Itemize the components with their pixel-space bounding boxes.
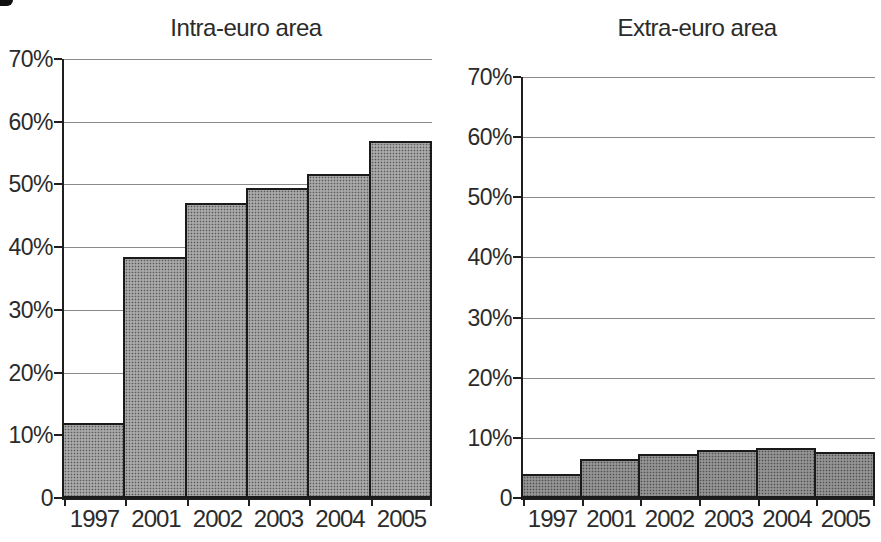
gridline bbox=[523, 318, 875, 319]
y-axis-label: 20% bbox=[442, 365, 512, 391]
x-axis-tick bbox=[523, 500, 525, 506]
x-axis-tick bbox=[758, 500, 760, 506]
y-axis-tick bbox=[513, 497, 521, 499]
gridline bbox=[523, 438, 875, 439]
y-axis-tick bbox=[513, 256, 521, 258]
y-axis-label: 0 bbox=[442, 485, 512, 511]
x-axis-label: 2002 bbox=[640, 505, 699, 533]
y-axis-tick bbox=[513, 196, 521, 198]
gridline bbox=[523, 378, 875, 379]
x-axis-tick bbox=[582, 500, 584, 506]
y-axis-tick bbox=[513, 377, 521, 379]
y-axis-tick bbox=[513, 317, 521, 319]
bar-2001 bbox=[580, 459, 640, 498]
gridline bbox=[523, 77, 875, 78]
x-axis-tick bbox=[699, 500, 701, 506]
x-axis-label: 2005 bbox=[816, 505, 875, 533]
y-axis-label: 40% bbox=[442, 244, 512, 270]
y-axis-tick bbox=[513, 437, 521, 439]
y-axis-tick bbox=[513, 136, 521, 138]
x-axis-label: 2001 bbox=[582, 505, 640, 533]
y-axis-tick bbox=[513, 76, 521, 78]
extra-euro-area-chart: Extra-euro area 70%60%50%40%30%20%10%019… bbox=[0, 0, 881, 542]
x-axis-tick bbox=[816, 500, 818, 506]
y-axis-label: 10% bbox=[442, 425, 512, 451]
x-axis-label: 2003 bbox=[699, 505, 758, 533]
x-axis-tick bbox=[640, 500, 642, 506]
y-axis-label: 60% bbox=[442, 124, 512, 150]
chart-title: Extra-euro area bbox=[521, 14, 873, 42]
gridline bbox=[523, 197, 875, 198]
x-axis-label: 2004 bbox=[758, 505, 816, 533]
gridline bbox=[523, 137, 875, 138]
gridline bbox=[523, 257, 875, 258]
bar-2003 bbox=[697, 450, 758, 498]
y-axis-label: 70% bbox=[442, 64, 512, 90]
figure-canvas: Intra-euro area 70%60%50%40%30%20%10%019… bbox=[0, 0, 881, 542]
bar-2004 bbox=[756, 448, 816, 498]
bar-1997 bbox=[521, 474, 582, 498]
bar-2005 bbox=[814, 452, 875, 498]
y-axis-label: 50% bbox=[442, 184, 512, 210]
plot-area: 70%60%50%40%30%20%10%0199720012002200320… bbox=[521, 77, 875, 500]
bar-2002 bbox=[638, 454, 699, 498]
x-axis-label: 1997 bbox=[523, 505, 582, 533]
y-axis-label: 30% bbox=[442, 305, 512, 331]
x-axis-tick bbox=[873, 500, 875, 506]
